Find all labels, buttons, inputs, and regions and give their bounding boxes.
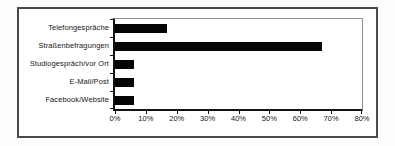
bar-2 [115,60,134,69]
bar-4 [115,96,134,105]
x-tick-label-1: 10% [138,114,153,123]
category-label-0: Telefongespräche [21,19,109,37]
y-axis-tick [110,91,113,92]
plot-area: 0%10%20%30%40%50%60%70%80% [113,18,363,111]
y-axis-tick [110,37,113,38]
bar-row [115,91,362,109]
category-label-2: Studiogespräch/vor Ort [21,55,109,73]
screenshot-root: 0%10%20%30%40%50%60%70%80% Telefongesprä… [0,0,395,146]
bar-row [115,55,362,73]
category-label-4: Facebook/Website [21,91,109,109]
x-tick-label-2: 20% [169,114,184,123]
bar-row [115,19,362,37]
y-axis-tick [110,108,113,109]
chart-frame: 0%10%20%30%40%50%60%70%80% Telefongesprä… [17,7,378,138]
category-label-1: Straßenbefragungen [21,37,109,55]
y-axis-tick [110,55,113,56]
bar-row [115,37,362,55]
x-tick-label-3: 30% [200,114,215,123]
y-axis-tick [110,19,113,20]
category-label-3: E-Mail/Post [21,73,109,91]
x-tick-label-4: 40% [231,114,246,123]
x-tick-label-5: 50% [262,114,277,123]
bar-row [115,73,362,91]
bar-1 [115,42,322,51]
x-tick-label-6: 60% [293,114,308,123]
x-tick-label-7: 70% [324,114,339,123]
x-tick-label-8: 80% [354,114,369,123]
y-axis-tick [110,73,113,74]
bar-3 [115,78,134,87]
bar-0 [115,24,167,33]
x-tick-label-0: 0% [110,114,121,123]
